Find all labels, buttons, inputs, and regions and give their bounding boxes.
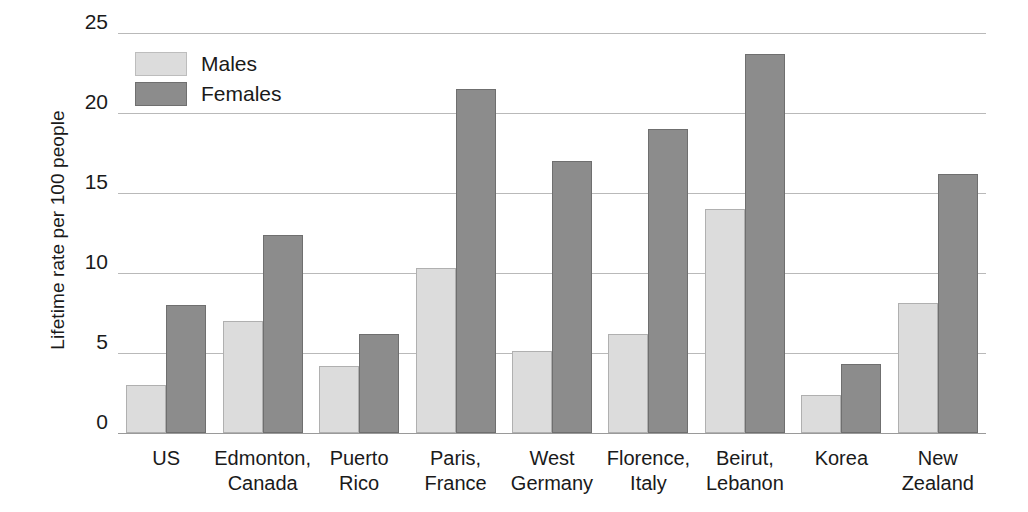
legend-label: Females (201, 82, 282, 106)
y-tick-label-20: 20 (64, 91, 108, 112)
bar (456, 89, 496, 433)
bar (608, 334, 648, 433)
x-axis-category-label: New Zealand (880, 446, 996, 496)
bar-group (898, 33, 978, 433)
bar (552, 161, 592, 433)
legend-label: Males (201, 52, 257, 76)
bar (359, 334, 399, 433)
y-tick-label-25: 25 (64, 11, 108, 32)
y-tick-label-0: 0 (64, 411, 108, 432)
bar (745, 54, 785, 433)
bar (801, 395, 841, 433)
legend-item: Males (135, 50, 282, 78)
bar (126, 385, 166, 433)
bar-group (512, 33, 592, 433)
bar (319, 366, 359, 433)
bar-group (705, 33, 785, 433)
bar-group (801, 33, 881, 433)
bar (223, 321, 263, 433)
y-axis-title: Lifetime rate per 100 people (38, 20, 78, 440)
bar (512, 351, 552, 433)
bar-chart-figure: Lifetime rate per 100 people 0510152025 … (0, 0, 1028, 512)
legend-swatch-icon (135, 52, 187, 76)
bar (938, 174, 978, 433)
gridline-0 (118, 433, 986, 434)
bar (263, 235, 303, 433)
bar (841, 364, 881, 433)
bar (898, 303, 938, 433)
legend-item: Females (135, 80, 282, 108)
legend-swatch-icon (135, 82, 187, 106)
y-tick-label-15: 15 (64, 171, 108, 192)
bar-group (319, 33, 399, 433)
y-tick-label-10: 10 (64, 251, 108, 272)
bar (416, 268, 456, 433)
bar (166, 305, 206, 433)
bar (648, 129, 688, 433)
chart-legend: MalesFemales (135, 50, 282, 108)
y-tick-label-5: 5 (64, 331, 108, 352)
bar-group (416, 33, 496, 433)
bar-group (608, 33, 688, 433)
bar (705, 209, 745, 433)
